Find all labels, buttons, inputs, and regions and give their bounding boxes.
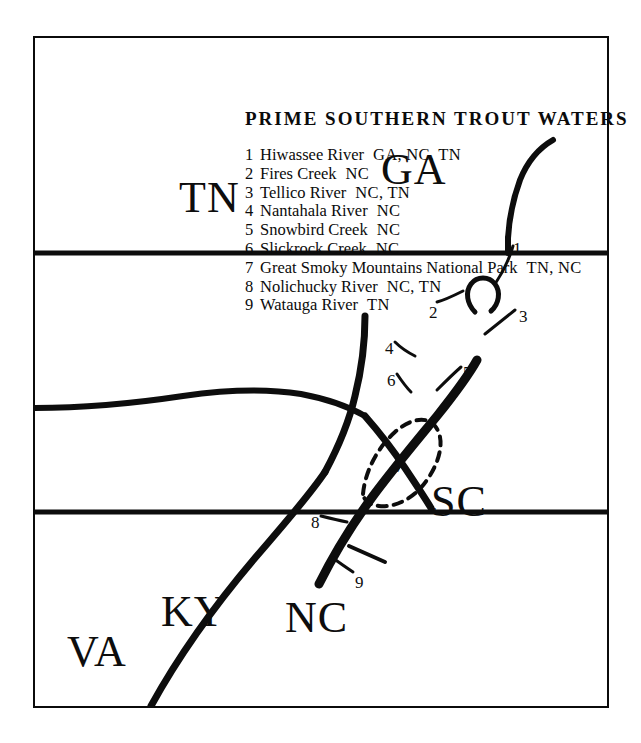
legend-item-states: NC, TN <box>355 183 410 202</box>
legend-item-name: Great Smoky Mountains National Park <box>260 258 518 277</box>
legend-item-name: Snowbird Creek <box>260 221 368 240</box>
legend-item-states: NC <box>375 239 399 258</box>
site-marker-4: 4 <box>385 340 394 357</box>
state-label-nc: NC <box>285 596 348 640</box>
legend-item: 9 Watauga River TN <box>245 296 629 315</box>
rotated-figure-wrapper: KY VA TN NC GA SC 1 2 <box>21 22 621 722</box>
north-carolina-south-carolina-border <box>35 390 365 416</box>
site-marker-5-text: 5 <box>463 363 472 382</box>
leader-line-4 <box>395 342 415 356</box>
legend-item-index: 9 <box>245 296 260 315</box>
state-label-va-text: VA <box>67 627 127 676</box>
legend-item-index: 3 <box>245 183 260 202</box>
legend-item-states: TN, NC <box>526 258 581 277</box>
legend-item-index: 6 <box>245 239 260 258</box>
state-label-tn: TN <box>179 176 240 220</box>
kentucky-southeast-border <box>325 316 365 472</box>
legend-item-name: Slickrock Creek <box>260 239 367 258</box>
legend-item-name: Hiwassee River <box>260 146 364 165</box>
legend-item-index: 8 <box>245 277 260 296</box>
nolichucky-branch <box>349 546 385 562</box>
legend-item-index: 7 <box>245 258 260 277</box>
figure-page: KY VA TN NC GA SC 1 2 <box>0 0 641 743</box>
legend-item-states: NC, TN <box>386 277 441 296</box>
legend-item-index: 4 <box>245 202 260 221</box>
site-marker-7-text: 7 <box>395 457 404 476</box>
legend-item-name: Nantahala River <box>260 202 368 221</box>
legend-item-name: Fires Creek <box>260 164 337 183</box>
legend-item: 4 Nantahala River NC <box>245 202 629 221</box>
state-label-sc-text: SC <box>431 477 487 526</box>
legend-item-name: Nolichucky River <box>260 277 378 296</box>
legend-item-index: 5 <box>245 221 260 240</box>
site-marker-7: 7 <box>395 458 404 475</box>
legend-block: PRIME SOUTHERN TROUT WATERS 1 Hiwassee R… <box>245 108 629 315</box>
legend-item-index: 1 <box>245 146 260 165</box>
state-label-nc-text: NC <box>285 593 348 642</box>
legend-item-name: Tellico River <box>260 183 346 202</box>
legend-item: 6 Slickrock Creek NC <box>245 239 629 258</box>
site-marker-9: 9 <box>355 574 364 591</box>
legend-item: 3 Tellico River NC, TN <box>245 183 629 202</box>
state-label-tn-text: TN <box>179 173 240 222</box>
legend-item: 1 Hiwassee River GA, NC, TN <box>245 146 629 165</box>
site-marker-6-text: 6 <box>387 371 396 390</box>
site-marker-8-text: 8 <box>311 513 320 532</box>
leader-line-8 <box>321 516 347 522</box>
legend-item: 7 Great Smoky Mountains National Park TN… <box>245 258 629 277</box>
legend-list: 1 Hiwassee River GA, NC, TN 2 Fires Cree… <box>245 146 629 315</box>
site-marker-5: 5 <box>463 364 472 381</box>
state-label-ky-text: KY <box>161 587 227 636</box>
leader-line-9 <box>333 558 353 572</box>
legend-item: 2 Fires Creek NC <box>245 164 629 183</box>
legend-item-name: Watauga River <box>260 296 358 315</box>
site-marker-9-text: 9 <box>355 573 364 592</box>
legend-item-states: NC <box>376 202 400 221</box>
state-label-va: VA <box>67 630 127 674</box>
legend-title: PRIME SOUTHERN TROUT WATERS <box>245 108 629 130</box>
legend-item-states: NC <box>376 221 400 240</box>
legend-item: 8 Nolichucky River NC, TN <box>245 277 629 296</box>
legend-item-index: 2 <box>245 164 260 183</box>
state-label-sc: SC <box>431 480 487 524</box>
leader-line-6 <box>397 374 411 392</box>
site-marker-6: 6 <box>387 372 396 389</box>
legend-item-states: GA, NC, TN <box>373 146 461 165</box>
legend-item-states: TN <box>367 296 390 315</box>
state-label-ky: KY <box>161 590 227 634</box>
legend-item-states: NC <box>345 164 369 183</box>
site-marker-4-text: 4 <box>385 339 394 358</box>
map-figure: KY VA TN NC GA SC 1 2 <box>33 36 609 708</box>
site-marker-8: 8 <box>311 514 320 531</box>
legend-item: 5 Snowbird Creek NC <box>245 221 629 240</box>
